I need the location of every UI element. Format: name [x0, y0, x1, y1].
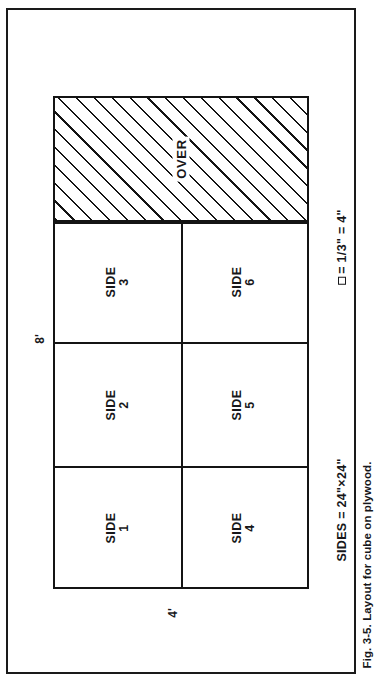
panel-label-side-4: SIDE 4 [231, 512, 257, 543]
panel-name: SIDE [231, 390, 244, 421]
panel-number: 1 [118, 512, 131, 543]
figure-border: OVER SIDE 3 SIDE 6 SIDE 2 [6, 8, 356, 674]
plywood-sheet-outline: OVER SIDE 3 SIDE 6 SIDE 2 [53, 96, 309, 589]
panel-name: SIDE [105, 512, 118, 543]
panel-cell-side-5: SIDE 5 [181, 344, 307, 466]
panel-cell-side-6: SIDE 6 [181, 222, 307, 342]
scale-note: = 1/3" = 4" [335, 209, 349, 285]
sheet-width-dimension: 4' [166, 608, 180, 618]
panel-label-side-2: SIDE 2 [105, 390, 131, 421]
panel-label-side-1: SIDE 1 [105, 512, 131, 543]
panel-name: SIDE [105, 390, 118, 421]
panel-cell-side-2: SIDE 2 [55, 344, 181, 466]
figure-caption: Fig. 3-5. Layout for cube on plywood. [361, 462, 373, 669]
panel-cell-side-1: SIDE 1 [55, 468, 181, 587]
panel-number: 2 [118, 390, 131, 421]
panel-name: SIDE [231, 267, 244, 298]
sides-dimension-note: SIDES = 24"×24" [335, 458, 349, 561]
panel-label-side-3: SIDE 3 [105, 267, 131, 298]
panel-name: SIDE [105, 267, 118, 298]
panel-number: 3 [118, 267, 131, 298]
panel-label-side-5: SIDE 5 [231, 390, 257, 421]
panel-cell-side-4: SIDE 4 [181, 468, 307, 587]
panel-number: 4 [244, 512, 257, 543]
sheet-height-dimension: 8' [33, 334, 47, 344]
panel-cell-side-3: SIDE 3 [55, 222, 181, 342]
panel-label-side-6: SIDE 6 [231, 267, 257, 298]
panel-name: SIDE [231, 512, 244, 543]
over-waste-region: OVER [55, 98, 307, 222]
square-glyph-icon [338, 277, 346, 285]
scale-note-text: = 1/3" = 4" [335, 209, 349, 274]
panel-number: 6 [244, 267, 257, 298]
panel-number: 5 [244, 390, 257, 421]
over-label: OVER [173, 136, 190, 181]
